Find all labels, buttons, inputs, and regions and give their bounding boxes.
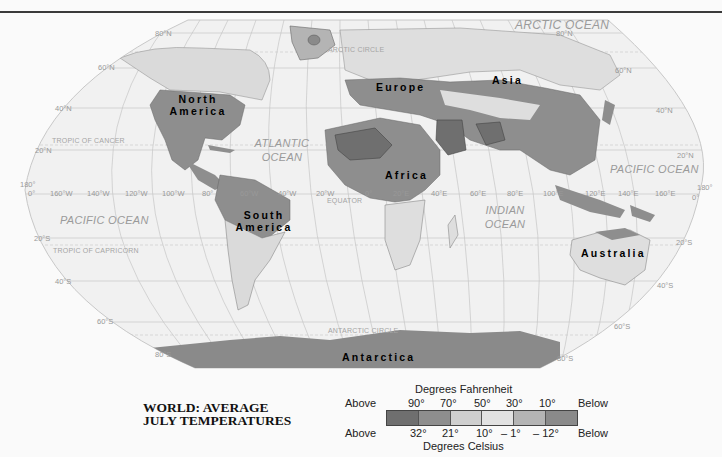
pacific-ocean-east-label: PACIFIC OCEAN	[610, 162, 699, 176]
lon-180-right: 180°	[697, 183, 713, 192]
lat-80s-right: 80°S	[557, 354, 573, 363]
lat-20n-right: 20°N	[677, 151, 694, 160]
lat-80n-right: 80°N	[556, 29, 573, 38]
legend-above-c: Above	[345, 427, 376, 439]
lon-60w: 60°W	[240, 189, 258, 198]
legend-f-tick-30: 30°	[506, 397, 523, 409]
lat-40n-right: 40°N	[656, 106, 673, 115]
arctic-circle-label: ARCTIC CIRCLE	[328, 46, 384, 53]
lon-40w: 40°W	[278, 189, 296, 198]
lat-60s-left: 60°S	[97, 317, 113, 326]
lat-60s-right: 60°S	[614, 322, 630, 331]
lat-0-right: 0°	[692, 193, 699, 202]
legend-c-tick-minus12: – 12°	[533, 427, 559, 439]
continent-label-africa: Africa	[385, 169, 428, 181]
lat-40s-left: 40°S	[55, 277, 71, 286]
lat-20n-left: 20°N	[35, 146, 52, 155]
legend-f-tick-50: 50°	[474, 397, 491, 409]
swatch-30-50	[482, 411, 514, 425]
lon-100w: 100°W	[162, 189, 185, 198]
lon-120w: 120°W	[125, 189, 148, 198]
lat-0-left: 0°	[28, 189, 35, 198]
continent-label-antarctica: Antarctica	[342, 351, 415, 363]
lon-20e: 20°E	[393, 189, 409, 198]
lon-80w: 80°	[202, 189, 213, 198]
lon-60e: 60°E	[470, 189, 486, 198]
lon-120e: 120°E	[585, 189, 606, 198]
continent-label-north-america: NorthAmerica	[162, 93, 234, 117]
legend-c-tick-32: 32°	[410, 427, 427, 439]
lon-160e: 160°E	[655, 189, 676, 198]
continent-label-europe: Europe	[376, 81, 425, 93]
lat-80n-left: 80°N	[155, 29, 172, 38]
legend-fahrenheit-label: Degrees Fahrenheit	[415, 383, 512, 395]
lat-40n-left: 40°N	[55, 104, 72, 113]
swatch-50-70	[451, 411, 483, 425]
tropic-of-cancer-label: TROPIC OF CANCER	[52, 137, 125, 144]
map-title: WORLD: AVERAGE JULY TEMPERATURES	[143, 401, 291, 427]
legend-f-tick-70: 70°	[440, 397, 457, 409]
greenland-ice-core	[308, 35, 320, 45]
lon-160w: 160°W	[50, 189, 73, 198]
lon-0: 0°	[365, 189, 372, 198]
lat-60n-left: 60°N	[98, 63, 115, 72]
indian-ocean-label: INDIANOCEAN	[480, 203, 530, 231]
legend-below-f: Below	[578, 397, 608, 409]
equator-label: EQUATOR	[327, 197, 362, 204]
legend-f-tick-10: 10°	[539, 397, 556, 409]
legend-swatches	[386, 410, 578, 426]
lat-80s-left: 80°S	[155, 350, 171, 359]
legend-below-c: Below	[578, 427, 608, 439]
swatch-above-90	[387, 411, 419, 425]
lon-40e: 40°E	[431, 189, 447, 198]
swatch-10-30	[514, 411, 546, 425]
legend-celsius-label: Degrees Celsius	[423, 440, 504, 452]
map-title-line2: JULY TEMPERATURES	[143, 414, 291, 427]
legend-c-tick-21: 21°	[442, 427, 459, 439]
lat-60n-right: 60°N	[615, 66, 632, 75]
lon-140w: 140°W	[87, 189, 110, 198]
legend-c-tick-10: 10°	[476, 427, 493, 439]
swatch-70-90	[419, 411, 451, 425]
continent-label-south-america: SouthAmerica	[228, 209, 300, 233]
legend-c-tick-minus1: – 1°	[501, 427, 521, 439]
legend-f-tick-90: 90°	[408, 397, 425, 409]
swatch-below-10	[546, 411, 577, 425]
lon-80e: 80°E	[507, 189, 523, 198]
temperature-legend: Degrees Fahrenheit Above 90° 70° 50° 30°…	[340, 380, 630, 457]
pacific-ocean-west-label: PACIFIC OCEAN	[60, 213, 149, 227]
lon-20w: 20°W	[316, 189, 334, 198]
atlantic-ocean-label: ATLANTICOCEAN	[252, 136, 312, 164]
lon-140e: 140°E	[618, 189, 639, 198]
continent-label-australia: Australia	[581, 247, 646, 259]
lat-20s-right: 20°S	[676, 238, 692, 247]
legend-above-f: Above	[345, 397, 376, 409]
tropic-of-capricorn-label: TROPIC OF CAPRICORN	[53, 247, 139, 254]
continent-label-asia: Asia	[492, 74, 523, 86]
lat-20s-left: 20°S	[34, 234, 50, 243]
lat-40s-right: 40°S	[657, 281, 673, 290]
antarctic-circle-label: ANTARCTIC CIRCLE	[328, 327, 398, 334]
lon-180-left: 180°	[20, 180, 36, 189]
lon-100e: 100°E	[543, 189, 564, 198]
